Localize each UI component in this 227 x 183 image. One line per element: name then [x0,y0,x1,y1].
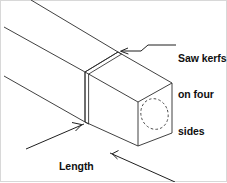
tenon-end-face-bottom-edge [138,133,172,146]
tenon-top-face [85,52,172,102]
board-top-back-edge [31,0,118,52]
kerf-top-line-a [85,52,118,72]
kerf-top-line-b [89,54,122,74]
saw-kerfs-label-line-3: sides [178,125,227,137]
length-of-tenon-label: Length of tenon [59,135,100,182]
board-geometry [4,0,172,146]
hidden-mortise-ellipse [137,95,172,133]
length-of-tenon-label-line-1: Length [59,160,100,172]
saw-kerfs-leader [121,45,177,54]
tenon-diagram-figure: Saw kerfs on four sides Length of tenon [0,0,227,182]
saw-kerfs-leader-line [122,45,176,51]
kerf-top-end-cap [118,52,122,54]
length-of-tenon-leaders [26,123,175,183]
saw-kerfs-label-line-1: Saw kerfs [178,52,227,64]
tenon-dimension-line-right [110,153,175,182]
saw-kerfs-label-line-2: on four [178,88,227,100]
board-top-front-edge [4,27,85,72]
tenon-dimension-arrow-right [112,151,118,160]
board-bottom-front-edge [4,76,85,122]
saw-kerfs-label: Saw kerfs on four sides [178,27,227,162]
